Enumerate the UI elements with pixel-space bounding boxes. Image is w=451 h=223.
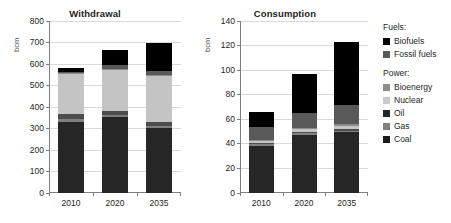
x-axis-tick-label-2035: 2035	[150, 199, 169, 208]
figure-container: Withdrawal bcm 0100200300400500600700800…	[0, 0, 451, 223]
x-axis-tick-label-2035: 2035	[337, 199, 356, 208]
bar-segment-bioenergy	[334, 124, 359, 126]
bar-segment-fossil-fuels	[292, 113, 317, 127]
bar-segment-bioenergy	[146, 75, 172, 76]
y-axis-tick-label: 200	[30, 146, 44, 155]
bar-segment-oil	[249, 143, 274, 144]
legend-swatch-oil	[383, 110, 390, 117]
bar-segment-gas	[249, 144, 274, 145]
bar-segment-nuclear	[58, 74, 84, 114]
y-axis-tick-label: 40	[226, 139, 235, 148]
legend-item-oil[interactable]: Oil	[383, 107, 451, 120]
bar-segment-bioenergy	[292, 128, 317, 129]
bar-withdrawal-2010	[58, 68, 84, 193]
legend-label-oil: Oil	[394, 109, 404, 118]
y-axis-line	[240, 21, 241, 193]
bar-segment-fossil-fuels	[58, 72, 84, 74]
bar-segment-oil	[292, 132, 317, 134]
y-axis-tick-label: 20	[226, 164, 235, 173]
x-axis-tick	[367, 193, 368, 196]
y-axis-label-withdrawal: bcm	[12, 38, 21, 52]
y-axis-tick-label: 800	[30, 17, 44, 26]
bar-segment-fossil-fuels	[102, 65, 128, 69]
bar-segment-oil	[102, 111, 128, 115]
x-axis-tick-label-2020: 2020	[106, 199, 125, 208]
y-axis-tick-label: 500	[30, 81, 44, 90]
bar-segment-coal	[102, 117, 128, 193]
bar-segment-gas	[292, 133, 317, 134]
y-axis-tick-label: 140	[221, 17, 235, 26]
bar-segment-bioenergy	[58, 73, 84, 74]
bar-segment-biofuels	[102, 50, 128, 66]
bar-segment-gas	[334, 131, 359, 133]
plot-area-consumption: 020406080100120140201020202035	[240, 21, 368, 193]
x-axis-tick	[325, 193, 326, 196]
bar-segment-nuclear	[146, 76, 172, 121]
bar-segment-nuclear	[102, 70, 128, 111]
legend-swatch-fossil_fuels	[383, 51, 390, 58]
x-axis-tick	[180, 193, 181, 196]
legend-label-bioenergy: Bioenergy	[394, 83, 432, 92]
legend-swatch-biofuels	[383, 38, 390, 45]
legend-item-coal[interactable]: Coal	[383, 133, 451, 146]
y-axis-label-consumption: bcm	[203, 38, 212, 52]
y-axis-tick-label: 600	[30, 60, 44, 69]
x-axis-tick	[49, 193, 50, 196]
chart-legend: Fuels:BiofuelsFossil fuelsPower:Bioenerg…	[383, 22, 451, 146]
bar-segment-oil	[58, 114, 84, 119]
bar-segment-biofuels	[334, 42, 359, 105]
legend-swatch-coal	[383, 136, 390, 143]
legend-item-fossil_fuels[interactable]: Fossil fuels	[383, 48, 451, 61]
bar-segment-fossil-fuels	[249, 127, 274, 140]
bar-consumption-2010	[249, 112, 274, 193]
bar-segment-coal	[249, 146, 274, 193]
x-axis-tick	[283, 193, 284, 196]
legend-item-gas[interactable]: Gas	[383, 120, 451, 133]
bar-segment-nuclear	[249, 141, 274, 143]
bar-segment-fossil-fuels	[334, 105, 359, 125]
x-axis-tick	[137, 193, 138, 196]
bar-consumption-2020	[292, 74, 317, 193]
bar-segment-biofuels	[58, 68, 84, 71]
plot-area-withdrawal: 0100200300400500600700800201020202035	[49, 21, 181, 193]
x-axis-tick-label-2020: 2020	[295, 199, 314, 208]
legend-swatch-gas	[383, 123, 390, 130]
legend-item-bioenergy[interactable]: Bioenergy	[383, 81, 451, 94]
legend-label-coal: Coal	[394, 135, 411, 144]
y-axis-tick-label: 400	[30, 103, 44, 112]
bar-segment-biofuels	[249, 112, 274, 127]
y-axis-tick-label: 100	[221, 66, 235, 75]
x-axis-tick	[240, 193, 241, 196]
bar-segment-coal	[292, 135, 317, 193]
legend-group-title-power: Power:	[383, 68, 451, 79]
x-axis-tick-label-2010: 2010	[252, 199, 271, 208]
bar-segment-coal	[146, 128, 172, 193]
legend-label-nuclear: Nuclear	[394, 96, 423, 105]
bar-segment-biofuels	[146, 43, 172, 71]
legend-item-nuclear[interactable]: Nuclear	[383, 94, 451, 107]
y-axis-tick-label: 700	[30, 38, 44, 47]
legend-label-biofuels: Biofuels	[394, 37, 424, 46]
bar-segment-bioenergy	[249, 140, 274, 141]
y-axis-tick-label: 60	[226, 115, 235, 124]
bar-segment-oil	[334, 129, 359, 131]
y-axis-tick-label: 80	[226, 90, 235, 99]
bar-segment-bioenergy	[102, 69, 128, 70]
y-axis-tick-label: 300	[30, 124, 44, 133]
bar-segment-coal	[58, 122, 84, 193]
bar-consumption-2035	[334, 42, 359, 193]
legend-group-title-fuels: Fuels:	[383, 22, 451, 33]
y-axis-tick-label: 0	[39, 189, 44, 198]
y-axis-tick-label: 0	[230, 189, 235, 198]
legend-label-fossil_fuels: Fossil fuels	[394, 50, 437, 59]
bar-segment-biofuels	[292, 74, 317, 113]
y-axis-tick-label: 100	[30, 167, 44, 176]
bar-segment-oil	[146, 122, 172, 126]
bar-segment-nuclear	[292, 129, 317, 131]
bar-withdrawal-2020	[102, 50, 128, 193]
legend-label-gas: Gas	[394, 122, 410, 131]
legend-item-biofuels[interactable]: Biofuels	[383, 35, 451, 48]
y-axis-tick-label: 120	[221, 41, 235, 50]
chart-panel-consumption: Consumption bcm 020406080100120140201020…	[190, 0, 380, 223]
chart-title-withdrawal: Withdrawal	[0, 8, 190, 19]
